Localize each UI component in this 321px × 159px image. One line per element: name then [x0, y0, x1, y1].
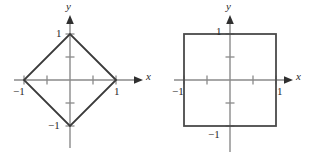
x-axis-label: x [146, 71, 151, 82]
y-axis-label: y [66, 1, 71, 12]
x-axis-arrowhead-icon [134, 76, 143, 84]
y-tick-label-minus-one: −1 [208, 129, 220, 140]
x-tick-label-minus-one: −1 [13, 86, 25, 97]
x-axis-arrowhead-icon [284, 76, 293, 84]
y-axis-label: y [226, 1, 231, 12]
diamond-plot-svg [0, 0, 161, 159]
x-tick-label-minus-one: −1 [172, 86, 184, 97]
figure-container: y x 1 −1 −1 1 y [0, 0, 321, 159]
chart-panel-diamond: y x 1 −1 −1 1 [0, 0, 161, 159]
y-axis-arrowhead-icon [226, 15, 234, 24]
y-tick-label-minus-one: −1 [48, 120, 60, 131]
y-axis-arrowhead-icon [66, 15, 74, 24]
x-tick-label-one: 1 [114, 86, 120, 97]
x-tick-label-one: 1 [277, 86, 283, 97]
y-tick-label-one: 1 [216, 26, 222, 37]
chart-panel-square: y x 1 −1 −1 1 [160, 0, 321, 159]
x-axis-label: x [296, 71, 301, 82]
y-tick-label-one: 1 [56, 28, 62, 39]
